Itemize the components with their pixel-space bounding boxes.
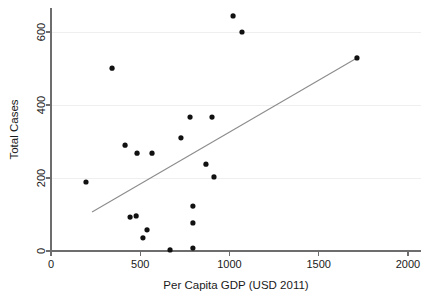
y-axis-tick-labels: 0200400600 <box>35 23 47 254</box>
y-tick-label-400: 400 <box>35 96 47 114</box>
data-point <box>149 151 154 156</box>
regression-line <box>92 58 357 212</box>
data-point <box>239 29 244 34</box>
x-axis-tick-labels: 0500100015002000 <box>48 258 420 270</box>
y-tick-label-200: 200 <box>35 169 47 187</box>
data-point-group <box>83 13 359 252</box>
plot-canvas: 0500100015002000 0200400600 Per Capita G… <box>0 0 424 296</box>
x-axis-title: Per Capita GDP (USD 2011) <box>163 279 308 291</box>
x-tick-label-2000: 2000 <box>396 258 420 270</box>
x-axis-ticks <box>51 251 408 256</box>
fit-line <box>92 58 357 212</box>
data-point <box>211 174 216 179</box>
y-tick-label-600: 600 <box>35 23 47 41</box>
x-tick-label-0: 0 <box>48 258 54 270</box>
x-tick-label-1000: 1000 <box>217 258 241 270</box>
x-tick-label-500: 500 <box>131 258 149 270</box>
axis-group <box>51 8 421 251</box>
data-point <box>203 162 208 167</box>
data-point <box>83 179 88 184</box>
data-point <box>190 220 195 225</box>
y-axis-title: Total Cases <box>8 99 20 159</box>
gridline-group <box>51 32 421 251</box>
data-point <box>190 204 195 209</box>
data-point <box>354 55 359 60</box>
data-point <box>187 114 192 119</box>
data-point <box>178 135 183 140</box>
data-point <box>209 114 214 119</box>
data-point <box>190 245 195 250</box>
data-point <box>122 143 127 148</box>
scatter-plot-figure: 0500100015002000 0200400600 Per Capita G… <box>0 0 424 296</box>
y-axis-ticks <box>46 32 51 251</box>
data-point <box>144 227 149 232</box>
y-tick-label-0: 0 <box>35 248 47 254</box>
data-point <box>134 213 139 218</box>
data-point <box>140 235 145 240</box>
data-point <box>127 214 132 219</box>
data-point <box>167 247 172 252</box>
data-point <box>134 151 139 156</box>
data-point <box>109 66 114 71</box>
x-tick-label-1500: 1500 <box>307 258 331 270</box>
data-point <box>230 13 235 18</box>
